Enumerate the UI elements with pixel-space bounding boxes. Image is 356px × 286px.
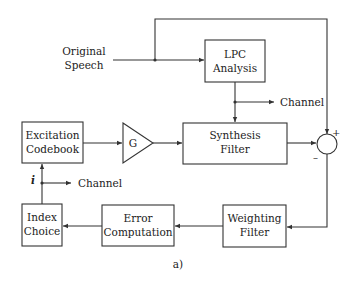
index-label-line2: Choice <box>24 225 61 237</box>
excitation-codebook-block: Excitation Codebook <box>22 122 83 163</box>
original-speech-label-line1: Original <box>62 45 106 57</box>
lpc-label-line2: Analysis <box>212 62 257 74</box>
index-choice-block: Index Choice <box>22 204 62 246</box>
error-computation-block: Error Computation <box>102 205 174 246</box>
summer-plus-sign: + <box>332 127 340 138</box>
gain-label: G <box>129 137 137 149</box>
error-label-line1: Error <box>123 212 153 224</box>
synthesis-filter-block: Synthesis Filter <box>183 123 287 164</box>
weighting-filter-block: Weighting Filter <box>223 205 286 247</box>
weighting-label-line2: Filter <box>240 226 270 238</box>
excitation-label-line2: Codebook <box>26 143 80 155</box>
original-speech-label-line2: Speech <box>65 59 104 71</box>
index-symbol: i <box>31 174 35 186</box>
excitation-label-line1: Excitation <box>26 129 80 141</box>
synthesis-label-line1: Synthesis <box>209 129 260 141</box>
lpc-label-line1: LPC <box>224 48 246 60</box>
synthesis-label-line2: Filter <box>220 143 250 155</box>
summer-minus-sign: – <box>313 152 318 163</box>
figure-caption: a) <box>173 258 183 270</box>
lpc-channel-label: Channel <box>280 96 325 108</box>
celp-block-diagram: Original Speech LPC Analysis Channel Exc… <box>0 0 356 286</box>
summer-to-weighting-line <box>287 154 327 227</box>
weighting-label-line1: Weighting <box>227 212 281 224</box>
error-label-line2: Computation <box>104 226 173 238</box>
index-channel-label: Channel <box>78 177 123 189</box>
lpc-analysis-block: LPC Analysis <box>205 40 265 82</box>
gain-amplifier: G <box>123 123 153 163</box>
index-label-line1: Index <box>27 211 57 223</box>
